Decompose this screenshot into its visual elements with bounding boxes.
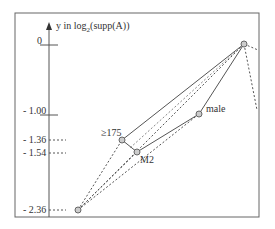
tick-label-2: - 1.36 bbox=[23, 134, 46, 145]
tick-label-4: - 2.36 bbox=[23, 204, 46, 215]
y-axis-arrow-icon bbox=[46, 22, 52, 30]
tick-label-3: - 1.54 bbox=[23, 147, 46, 158]
support-lattice-diagram: y in log2(supp(A)) 0 - 1.00 - 1.36 - 1.5… bbox=[0, 0, 275, 229]
y-axis-label: y in log2(supp(A)) bbox=[56, 20, 130, 34]
node-label-male: male bbox=[206, 103, 226, 114]
tick-label-0: 0 bbox=[37, 35, 42, 46]
node-bottom bbox=[75, 207, 81, 213]
node-male bbox=[196, 111, 202, 117]
node-label-m2: M2 bbox=[140, 154, 154, 165]
tick-label-1: - 1.00 bbox=[23, 105, 46, 116]
node-label-ge175: ≥175 bbox=[101, 127, 122, 138]
node-top bbox=[241, 41, 247, 47]
light-dashed-edge bbox=[130, 44, 244, 148]
